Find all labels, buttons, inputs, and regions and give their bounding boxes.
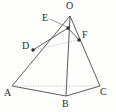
vertex-label-F: F bbox=[82, 30, 88, 40]
vertex-dot-E bbox=[66, 26, 69, 29]
geometry-canvas bbox=[0, 0, 116, 112]
vertex-label-C: C bbox=[100, 87, 107, 97]
vertex-dot-F bbox=[77, 38, 80, 41]
vertex-dot-D bbox=[31, 48, 34, 51]
vertex-label-A: A bbox=[4, 88, 11, 98]
vertex-dot-group bbox=[31, 26, 80, 51]
edge-DF-hidden bbox=[33, 40, 79, 50]
edge-AB bbox=[12, 86, 66, 96]
edge-group-solid bbox=[12, 16, 100, 96]
vertex-label-O: O bbox=[66, 1, 73, 11]
edge-BC bbox=[66, 86, 100, 96]
edge-OC bbox=[70, 16, 100, 86]
edge-OA bbox=[12, 16, 70, 86]
vertex-label-D: D bbox=[22, 41, 29, 51]
geometry-figure: O A B C D E F bbox=[0, 0, 116, 112]
vertex-label-E: E bbox=[42, 13, 48, 23]
edge-DE bbox=[33, 28, 68, 50]
vertex-label-B: B bbox=[62, 99, 69, 109]
